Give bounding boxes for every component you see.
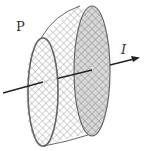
back-face xyxy=(74,6,110,136)
arrowhead-icon xyxy=(131,56,140,62)
label-p: P xyxy=(16,19,25,34)
label-current-i: I xyxy=(120,42,127,57)
current-arrow-head-line xyxy=(110,59,134,65)
front-face-p xyxy=(28,38,58,146)
cylinder-current-diagram: P I xyxy=(0,0,144,151)
